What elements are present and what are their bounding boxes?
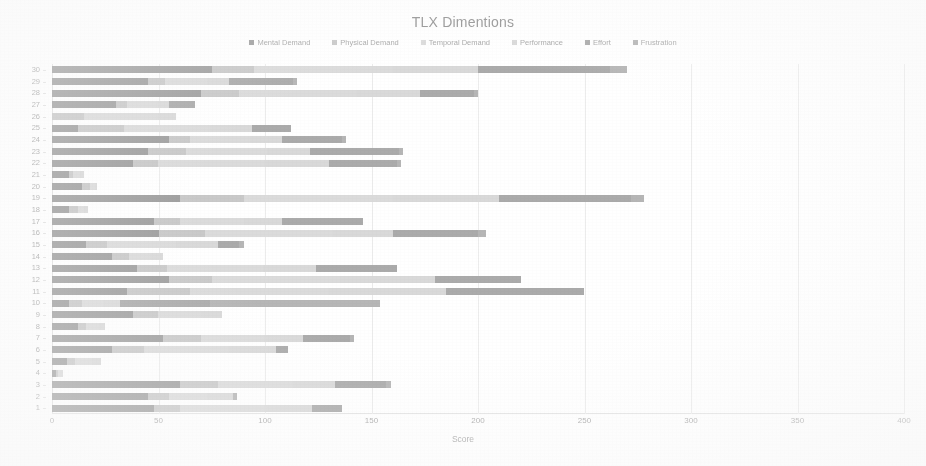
legend-item-effort[interactable]: Effort — [585, 38, 611, 47]
bar-segment — [52, 276, 169, 283]
bar-row[interactable] — [52, 64, 627, 76]
bar-row[interactable] — [52, 379, 391, 391]
bar-segment — [133, 311, 159, 318]
bar-segment — [163, 335, 201, 342]
y-tick-label: 24 — [0, 134, 40, 146]
gridline — [478, 64, 479, 414]
bar-row[interactable] — [52, 297, 380, 309]
bar-segment — [158, 113, 175, 120]
bar-row[interactable] — [52, 204, 88, 216]
bar-row[interactable] — [52, 227, 486, 239]
y-tick-label: 22 — [0, 157, 40, 169]
bar-segment — [276, 346, 289, 353]
bar-segment — [116, 101, 127, 108]
legend-item-frustration[interactable]: Frustration — [633, 38, 677, 47]
bar-segment — [254, 66, 392, 73]
y-tick-label: 12 — [0, 274, 40, 286]
bar-row[interactable] — [52, 216, 363, 228]
bar-row[interactable] — [52, 356, 101, 368]
bar-segment — [69, 300, 82, 307]
legend-item-physical-demand[interactable]: Physical Demand — [332, 38, 398, 47]
bar-segment — [127, 101, 159, 108]
y-tick-mark — [43, 327, 46, 328]
y-tick-mark — [43, 268, 46, 269]
bar-row[interactable] — [52, 192, 644, 204]
bar-row[interactable] — [52, 262, 397, 274]
bar-segment — [340, 276, 436, 283]
bar-segment — [180, 195, 244, 202]
bar-segment — [282, 136, 342, 143]
bar-row[interactable] — [52, 111, 176, 123]
gridline — [372, 64, 373, 414]
bar-segment — [52, 206, 69, 213]
bar-row[interactable] — [52, 344, 288, 356]
bar-segment — [180, 218, 244, 225]
bar-row[interactable] — [52, 76, 297, 88]
bar-segment — [82, 183, 91, 190]
y-tick-mark — [43, 198, 46, 199]
y-tick-mark — [43, 292, 46, 293]
y-tick-label: 5 — [0, 356, 40, 368]
bar-row[interactable] — [52, 274, 521, 286]
bar-row[interactable] — [52, 122, 291, 134]
bar-segment — [165, 78, 208, 85]
legend-item-performance[interactable]: Performance — [512, 38, 563, 47]
y-tick-mark — [43, 303, 46, 304]
bar-segment — [250, 136, 282, 143]
legend-item-mental-demand[interactable]: Mental Demand — [249, 38, 310, 47]
y-tick-label: 29 — [0, 76, 40, 88]
bar-segment — [342, 136, 346, 143]
bar-row[interactable] — [52, 286, 584, 298]
bar-row[interactable] — [52, 169, 84, 181]
y-tick-mark — [43, 152, 46, 153]
bar-row[interactable] — [52, 146, 403, 158]
bar-row[interactable] — [52, 321, 105, 333]
bar-row[interactable] — [52, 309, 222, 321]
bar-segment — [148, 78, 165, 85]
bar-row[interactable] — [52, 391, 237, 403]
bar-segment — [99, 323, 105, 330]
bar-segment — [218, 381, 293, 388]
bar-segment — [86, 323, 99, 330]
bar-segment — [127, 288, 191, 295]
bar-segment — [265, 335, 303, 342]
bar-segment — [393, 230, 478, 237]
bar-row[interactable] — [52, 251, 163, 263]
bar-segment — [52, 171, 69, 178]
legend-swatch-icon — [421, 40, 426, 45]
bar-segment — [148, 393, 169, 400]
bar-segment — [52, 405, 154, 412]
bar-row[interactable] — [52, 332, 354, 344]
bar-segment — [293, 381, 336, 388]
bar-segment — [78, 323, 87, 330]
bar-row[interactable] — [52, 134, 346, 146]
gridline — [691, 64, 692, 414]
bar-row[interactable] — [52, 367, 63, 379]
bar-segment — [393, 195, 500, 202]
bar-row[interactable] — [52, 402, 342, 414]
y-tick-label: 21 — [0, 169, 40, 181]
bar-segment — [201, 335, 265, 342]
bar-segment — [148, 148, 186, 155]
x-axis-labels: 050100150200250300350400 — [52, 416, 904, 432]
legend-item-label: Frustration — [641, 38, 677, 47]
bar-segment — [150, 253, 163, 260]
legend-item-temporal-demand[interactable]: Temporal Demand — [421, 38, 490, 47]
bar-segment — [167, 265, 263, 272]
bar-segment — [333, 230, 393, 237]
bar-segment — [399, 148, 403, 155]
bar-row[interactable] — [52, 181, 97, 193]
x-axis-title: Score — [0, 434, 926, 444]
bar-segment — [158, 311, 201, 318]
legend-swatch-icon — [633, 40, 638, 45]
bar-row[interactable] — [52, 239, 244, 251]
bar-segment — [52, 323, 78, 330]
y-tick-label: 2 — [0, 391, 40, 403]
bar-segment — [154, 218, 180, 225]
bar-segment — [244, 195, 393, 202]
bar-row[interactable] — [52, 87, 478, 99]
bar-segment — [52, 288, 127, 295]
bar-row[interactable] — [52, 157, 401, 169]
x-tick-label: 250 — [578, 416, 591, 425]
bar-row[interactable] — [52, 99, 195, 111]
